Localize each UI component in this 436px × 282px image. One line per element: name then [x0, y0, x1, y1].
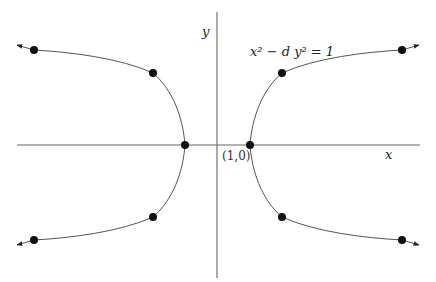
equation-label: x² − d y² = 1 [250, 44, 334, 59]
right-branch-lower [250, 145, 419, 245]
point-left-upper-far [30, 46, 38, 54]
left-branch-lower [17, 145, 185, 245]
right-branch-upper [250, 45, 419, 145]
point-right-lower-far [398, 236, 406, 244]
point-right-upper-far [398, 46, 406, 54]
left-branch-upper [17, 45, 185, 145]
hyperbola-diagram [0, 0, 436, 282]
point-left-lower-far [30, 236, 38, 244]
point-right-vertex [246, 141, 254, 149]
point-left-vertex [181, 141, 189, 149]
point-left-lower-near [149, 213, 157, 221]
y-axis-label: y [202, 24, 209, 39]
point-left-upper-near [149, 69, 157, 77]
point-right-upper-near [278, 69, 286, 77]
vertex-label: (1,0) [222, 149, 250, 163]
point-right-lower-near [278, 213, 286, 221]
x-axis-label: x [385, 147, 392, 162]
